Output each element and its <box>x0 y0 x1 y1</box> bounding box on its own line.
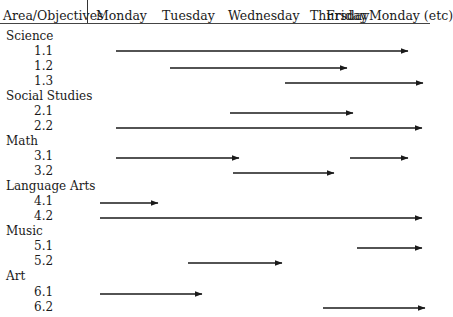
timeline-arrows <box>0 0 437 317</box>
